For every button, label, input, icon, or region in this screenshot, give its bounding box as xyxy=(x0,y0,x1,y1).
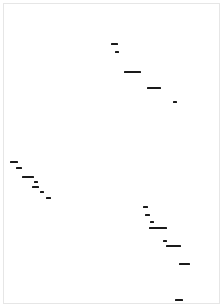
text-fragment xyxy=(115,51,119,54)
text-fragment-glyphs xyxy=(166,245,181,247)
document-page xyxy=(3,3,220,304)
text-fragment-glyphs xyxy=(147,87,161,89)
text-fragment xyxy=(166,245,181,248)
text-fragment xyxy=(111,43,118,46)
text-fragment-glyphs xyxy=(179,263,190,265)
text-fragment xyxy=(150,221,154,224)
text-fragment-glyphs xyxy=(150,221,154,223)
text-fragment xyxy=(10,161,18,164)
text-fragment-glyphs xyxy=(40,191,44,193)
text-fragment xyxy=(149,227,167,230)
text-fragment-glyphs xyxy=(34,181,38,183)
text-fragment-glyphs xyxy=(143,206,148,208)
text-fragment xyxy=(124,71,141,74)
text-fragment-glyphs xyxy=(111,43,118,45)
text-fragment xyxy=(163,240,167,243)
text-fragment xyxy=(179,263,190,266)
text-fragment xyxy=(46,197,51,200)
text-fragment xyxy=(143,206,148,209)
text-fragment-glyphs xyxy=(22,176,34,178)
text-fragment xyxy=(145,214,150,217)
text-fragment xyxy=(16,167,22,170)
text-fragment xyxy=(22,176,34,179)
text-fragment-glyphs xyxy=(163,240,167,242)
text-fragment xyxy=(175,299,183,302)
text-fragment-glyphs xyxy=(173,101,177,103)
text-fragment-glyphs xyxy=(175,299,183,301)
text-fragment xyxy=(34,181,38,184)
text-fragment-glyphs xyxy=(149,227,167,229)
text-fragment-glyphs xyxy=(115,51,119,53)
text-fragment xyxy=(173,101,177,104)
text-fragment-glyphs xyxy=(145,214,150,216)
text-fragment-glyphs xyxy=(32,186,39,188)
text-fragment xyxy=(32,186,39,189)
text-fragment-glyphs xyxy=(10,161,18,163)
text-fragment-glyphs xyxy=(16,167,22,169)
text-fragment xyxy=(40,191,44,194)
text-fragment-glyphs xyxy=(124,71,141,73)
text-fragment xyxy=(147,87,161,90)
text-fragment-glyphs xyxy=(46,197,51,199)
